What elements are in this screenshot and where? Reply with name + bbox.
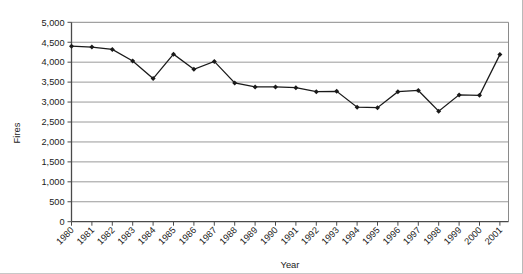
x-tick-label: 1996 bbox=[381, 225, 403, 247]
y-tick-label: 1,000 bbox=[42, 177, 65, 187]
y-tick-label: 4,500 bbox=[42, 38, 65, 48]
y-tick-label: 0 bbox=[59, 217, 64, 227]
y-tick-label: 1,500 bbox=[42, 157, 65, 167]
x-tick-label: 1988 bbox=[218, 225, 240, 247]
y-axis-ticks: 05001,0001,5002,0002,5003,0003,5004,0004… bbox=[42, 18, 72, 227]
x-tick-label: 1995 bbox=[360, 225, 382, 247]
y-axis-title: Fires bbox=[11, 122, 22, 143]
x-tick-label: 1984 bbox=[136, 225, 158, 247]
x-tick-label: 1994 bbox=[340, 225, 362, 247]
x-tick-label: 1991 bbox=[279, 225, 301, 247]
y-tick-label: 2,500 bbox=[42, 117, 65, 127]
y-tick-label: 3,000 bbox=[42, 97, 65, 107]
x-tick-label: 1987 bbox=[197, 225, 219, 247]
y-tick-label: 2,000 bbox=[42, 137, 65, 147]
x-tick-label: 1997 bbox=[401, 225, 423, 247]
x-tick-label: 2001 bbox=[483, 225, 505, 247]
x-axis-title: Year bbox=[281, 259, 300, 270]
x-tick-label: 1989 bbox=[238, 225, 260, 247]
x-tick-label: 1999 bbox=[442, 225, 464, 247]
x-tick-label: 2000 bbox=[462, 225, 484, 247]
x-tick-label: 1983 bbox=[116, 225, 138, 247]
line-chart: 05001,0001,5002,0002,5003,0003,5004,0004… bbox=[0, 0, 523, 274]
x-tick-label: 1998 bbox=[422, 225, 444, 247]
x-tick-label: 1982 bbox=[95, 225, 117, 247]
y-tick-label: 5,000 bbox=[42, 18, 65, 28]
y-tick-label: 3,500 bbox=[42, 77, 65, 87]
x-tick-label: 1990 bbox=[258, 225, 280, 247]
chart-figure: 05001,0001,5002,0002,5003,0003,5004,0004… bbox=[0, 0, 523, 274]
x-tick-label: 1993 bbox=[320, 225, 342, 247]
x-tick-label: 1980 bbox=[54, 225, 76, 247]
x-tick-label: 1992 bbox=[299, 225, 321, 247]
x-tick-label: 1986 bbox=[177, 225, 199, 247]
y-tick-label: 500 bbox=[49, 197, 64, 207]
x-tick-label: 1981 bbox=[75, 225, 97, 247]
y-tick-label: 4,000 bbox=[42, 57, 65, 67]
x-tick-label: 1985 bbox=[156, 225, 178, 247]
x-axis-ticks: 1980198119821983198419851986198719881989… bbox=[54, 222, 504, 247]
